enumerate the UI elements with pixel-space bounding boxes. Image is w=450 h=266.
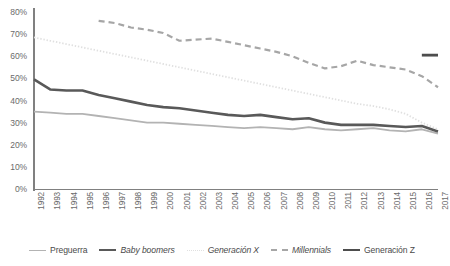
legend-item[interactable]: Preguerra [29,245,87,255]
y-tick-label: 80% [10,8,27,16]
x-tick-label: 1996 [102,192,111,210]
x-tick-label: 1992 [37,192,46,210]
legend-swatch-icon [99,249,116,251]
legend-label: Generación X [208,245,259,255]
x-axis-tick-labels: 1992199319941995199619971998199920002001… [0,192,444,232]
x-tick-label: 2001 [183,192,192,210]
x-tick-label: 2010 [328,192,337,210]
y-tick-label: 30% [10,119,27,127]
legend-item[interactable]: Baby boomers [99,245,174,255]
x-tick-label: 1997 [118,192,127,210]
series-line [99,21,438,87]
x-tick-label: 2015 [409,192,418,210]
y-tick-label: 50% [10,74,27,82]
x-tick-label: 2016 [425,192,434,210]
x-tick-label: 1994 [70,192,79,210]
legend-label: Generación Z [364,245,415,255]
legend-swatch-icon [343,249,360,251]
y-tick-label: 40% [10,97,27,105]
plot-area [34,12,438,189]
x-tick-label: 2006 [263,192,272,210]
x-tick-label: 2012 [360,192,369,210]
chart-legend: PreguerraBaby boomersGeneración XMillenn… [0,240,444,260]
x-tick-label: 2017 [441,192,450,210]
x-tick-label: 1998 [134,192,143,210]
x-tick-label: 2004 [231,192,240,210]
x-tick-label: 2007 [280,192,289,210]
legend-label: Millennials [292,245,331,255]
x-tick-label: 1999 [150,192,159,210]
legend-swatch-icon [29,250,46,251]
series-lines [34,12,438,189]
x-tick-label: 2005 [247,192,256,210]
legend-label: Baby boomers [120,245,174,255]
legend-item[interactable]: Generación X [187,245,259,255]
legend-item[interactable]: Generación Z [343,245,415,255]
x-tick-label: 2011 [344,192,353,209]
legend-swatch-icon [187,250,204,251]
x-tick-label: 2003 [215,192,224,210]
y-tick-label: 10% [10,163,27,171]
y-tick-label: 70% [10,30,27,38]
series-line [34,79,438,131]
x-tick-label: 2009 [312,192,321,210]
legend-item[interactable]: Millennials [271,245,331,255]
x-tick-label: 1995 [86,192,95,210]
x-tick-label: 2000 [166,192,175,210]
y-tick-label: 20% [10,141,27,149]
x-tick-label: 2014 [393,192,402,210]
x-tick-label: 2002 [199,192,208,210]
x-axis-line [33,189,438,190]
y-tick-label: 60% [10,52,27,60]
legend-swatch-icon [271,249,288,251]
x-tick-label: 2008 [296,192,305,210]
legend-label: Preguerra [50,245,87,255]
x-tick-label: 2013 [377,192,386,210]
x-tick-label: 1993 [53,192,62,210]
